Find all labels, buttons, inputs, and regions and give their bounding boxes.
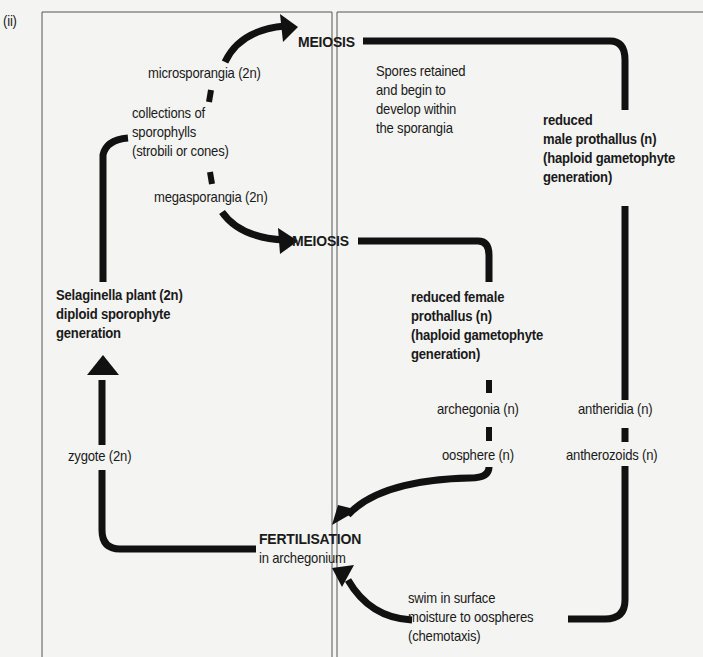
archegonia-label: archegonia (n) [437, 400, 519, 419]
antherozoids-label: antherozoids (n) [566, 446, 657, 465]
text-line: and begin to [376, 81, 465, 100]
text-line: the sporangia [376, 119, 465, 138]
female-prothallus-label: reduced female prothallus (n) (haploid g… [411, 288, 558, 364]
text-line: (haploid gametophyte [411, 326, 543, 345]
text-line: swim in surface [408, 589, 533, 608]
text-line: diploid sporophyte [56, 305, 183, 324]
text-line: male prothallus (n) [543, 130, 675, 149]
text-line: reduced female [411, 288, 543, 307]
text-line: collections of [132, 104, 229, 123]
text-line: (strobili or cones) [132, 142, 229, 161]
meiosis-top-label: MEIOSIS [298, 32, 355, 51]
meiosis-mid-label: MEIOSIS [292, 231, 349, 250]
text-line: Selaginella plant (2n) [56, 286, 183, 305]
collections-label: collections of sporophylls (strobili or … [132, 104, 239, 161]
fertilisation-label: FERTILISATION [259, 529, 361, 548]
male-prothallus-label: reduced male prothallus (n) (haploid gam… [543, 111, 690, 187]
antheridia-label: antheridia (n) [578, 400, 652, 419]
swim-label: swim in surface moisture to oospheres (c… [408, 589, 547, 646]
text-line: (chemotaxis) [408, 627, 533, 646]
text-line: moisture to oospheres [408, 608, 533, 627]
text-line: generation [56, 324, 183, 343]
spores-retained-label: Spores retained and begin to develop wit… [376, 62, 475, 138]
microsporangia-label: microsporangia (2n) [148, 64, 261, 83]
text-line: develop within [376, 100, 465, 119]
text-line: generation) [411, 345, 543, 364]
text-line: reduced [543, 111, 675, 130]
text-line: Spores retained [376, 62, 465, 81]
text-line: prothallus (n) [411, 307, 543, 326]
oosphere-label: oosphere (n) [442, 446, 514, 465]
text-line: (haploid gametophyte [543, 149, 675, 168]
text-line: sporophylls [132, 123, 229, 142]
text-line: generation) [543, 168, 675, 187]
selaginella-label: Selaginella plant (2n) diploid sporophyt… [56, 286, 197, 343]
zygote-label: zygote (2n) [68, 447, 131, 466]
in-archegonium-label: in archegonium [259, 549, 346, 568]
panel-label: (ii) [3, 12, 17, 31]
megasporangia-label: megasporangia (2n) [154, 188, 268, 207]
